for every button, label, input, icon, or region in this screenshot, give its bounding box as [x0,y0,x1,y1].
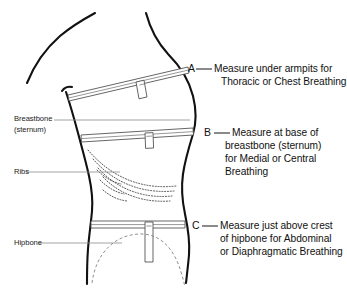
part-label-hipbone: Hipbone [14,238,42,248]
callout-c-line-3: or Diaphragmatic Breathing [220,245,343,258]
tape-b-buckle [145,133,154,149]
left-shoulder-contour [27,13,95,83]
tape-a-inner-line [69,70,189,98]
tape-band-a [68,67,189,101]
callout-a-line-2: Thoracic or Chest Breathing [221,75,347,88]
part-label-breastbone-line-2: (sternum) [14,125,46,135]
tape-band-b [81,128,194,148]
tape-band-c [91,221,185,262]
part-label-breastbone-line-1: Breastbone [14,114,52,124]
callout-a-line-1: Measure under armpits for [214,62,332,75]
rib-arcs [88,150,176,201]
armpit-hook [62,87,72,91]
callout-letter-a: A [188,62,195,75]
callout-c-line-2: of hipbone for Abdominal [220,232,332,245]
callout-letter-b: B [204,126,211,139]
part-label-ribs: Ribs [14,167,29,177]
callout-letter-c: C [192,219,200,232]
tape-c-buckle [145,222,153,262]
left-torso-contour [66,92,92,284]
callout-b-line-3: for Medial or Central [225,152,316,165]
callout-c-line-1: Measure just above crest [220,219,333,232]
pelvis-arc [92,234,185,287]
callout-b-line-4: Breathing [225,165,268,178]
callout-b-line-2: breastbone (sternum) [225,139,321,152]
callout-b-line-1: Measure at base of [232,126,318,139]
